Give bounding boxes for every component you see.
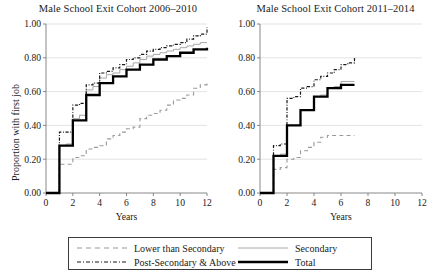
panels-container: Male School Exit Cohort 2006–2010 Propor… bbox=[0, 0, 439, 228]
svg-text:0: 0 bbox=[44, 197, 49, 208]
svg-text:1.00: 1.00 bbox=[24, 18, 41, 29]
svg-text:0: 0 bbox=[258, 197, 263, 208]
svg-text:0.00: 0.00 bbox=[24, 187, 41, 198]
series-line bbox=[46, 48, 207, 193]
svg-text:1.00: 1.00 bbox=[238, 18, 255, 29]
legend-swatch-total bbox=[237, 256, 289, 268]
legend-swatch-post-secondary-above bbox=[76, 256, 128, 268]
legend-grid: Lower than Secondary Post-Secondary & Ab… bbox=[69, 238, 371, 269]
legend-swatch-secondary bbox=[237, 242, 289, 254]
series-line bbox=[46, 43, 207, 193]
svg-text:Years: Years bbox=[116, 211, 138, 222]
svg-text:2: 2 bbox=[70, 197, 75, 208]
svg-text:6: 6 bbox=[124, 197, 129, 208]
plot-area-left: 0.000.200.400.600.801.00024681012Years bbox=[0, 0, 218, 228]
svg-text:0.40: 0.40 bbox=[238, 120, 255, 131]
legend-label-post-secondary-above: Post-Secondary & Above bbox=[134, 257, 236, 268]
svg-text:12: 12 bbox=[417, 197, 427, 208]
legend-item-secondary: Secondary bbox=[237, 241, 337, 255]
legend-label-secondary: Secondary bbox=[295, 243, 337, 254]
series-line bbox=[260, 85, 355, 193]
svg-text:10: 10 bbox=[175, 197, 185, 208]
legend-label-lower-than-secondary: Lower than Secondary bbox=[134, 243, 225, 254]
plot-area-right: 0.000.200.400.600.801.00024681012Years bbox=[218, 0, 439, 228]
figure-root: Male School Exit Cohort 2006–2010 Propor… bbox=[0, 0, 439, 277]
legend-label-total: Total bbox=[295, 257, 315, 268]
chart-panel-cohort-2006-2010: Male School Exit Cohort 2006–2010 Propor… bbox=[0, 0, 218, 228]
svg-text:6: 6 bbox=[339, 197, 344, 208]
svg-text:8: 8 bbox=[151, 197, 156, 208]
legend-swatch-lower-than-secondary bbox=[76, 242, 128, 254]
legend-item-total: Total bbox=[237, 255, 315, 269]
svg-text:0.00: 0.00 bbox=[238, 187, 255, 198]
svg-text:12: 12 bbox=[202, 197, 212, 208]
svg-text:0.20: 0.20 bbox=[24, 154, 41, 165]
svg-text:0.60: 0.60 bbox=[24, 86, 41, 97]
svg-text:0.80: 0.80 bbox=[24, 52, 41, 63]
svg-text:Years: Years bbox=[330, 211, 352, 222]
svg-text:0.40: 0.40 bbox=[24, 120, 41, 131]
chart-panel-cohort-2011-2014: Male School Exit Cohort 2011–2014 0.000.… bbox=[218, 0, 439, 228]
svg-text:2: 2 bbox=[285, 197, 290, 208]
svg-text:4: 4 bbox=[312, 197, 317, 208]
legend-item-lower-than-secondary: Lower than Secondary bbox=[76, 241, 225, 255]
svg-text:0.60: 0.60 bbox=[238, 86, 255, 97]
svg-text:4: 4 bbox=[97, 197, 102, 208]
svg-text:0.20: 0.20 bbox=[238, 154, 255, 165]
chart-legend: Lower than Secondary Post-Secondary & Ab… bbox=[68, 237, 372, 270]
series-line bbox=[46, 81, 207, 193]
svg-text:10: 10 bbox=[390, 197, 400, 208]
svg-text:0.80: 0.80 bbox=[238, 52, 255, 63]
svg-text:8: 8 bbox=[366, 197, 371, 208]
legend-item-post-secondary-above: Post-Secondary & Above bbox=[76, 255, 236, 269]
